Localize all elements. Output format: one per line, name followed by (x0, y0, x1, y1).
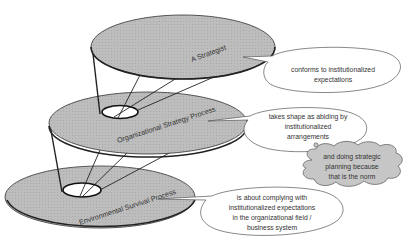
callout-environmental-survival-line-2: institutionalized expectations (229, 204, 316, 212)
callout-organizational-strategy-line-3: arrangements (287, 133, 330, 141)
thought-bubble-line-1: and doing strategic (323, 153, 381, 161)
callout-strategist-line-1: conforms to institutionalized (291, 66, 375, 73)
nested-levels-diagram: A Strategist Organizational Strategy Pro… (0, 0, 417, 242)
level-organizational-strategy (49, 92, 247, 157)
callout-environmental-survival-line-3: in the organizational field / (233, 214, 312, 222)
hole-organizational-strategy (102, 106, 138, 119)
hole-environmental-survival (63, 183, 101, 197)
thought-bubble: and doing strategic planning because tha… (303, 141, 402, 186)
callout-organizational-strategy-line-1: takes shape as abiding by (269, 113, 348, 121)
thought-bubble-line-2: planning because (325, 163, 379, 171)
thought-bubble-line-3: that is the norm (329, 173, 376, 180)
callout-organizational-strategy-line-2: institutionalized (285, 123, 332, 130)
disc-organizational-strategy (49, 92, 247, 154)
level-strategist (91, 15, 275, 79)
callout-environmental-survival-line-4: business system (247, 224, 298, 232)
callout-strategist-line-2: expectations (314, 76, 353, 84)
callout-environmental-survival-line-1: is about complying with (237, 194, 307, 202)
